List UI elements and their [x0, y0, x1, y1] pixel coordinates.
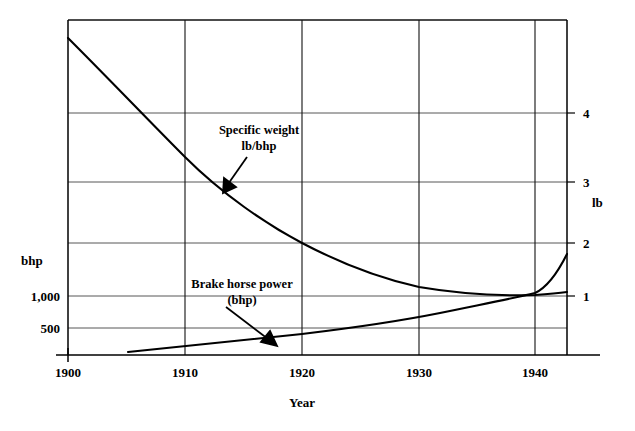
x-tick-label-1920: 1920 — [289, 366, 315, 379]
y-left-tick-label-500: 500 — [8, 322, 60, 335]
axis-lines — [56, 20, 600, 355]
series-specific-weight-curve — [68, 38, 567, 295]
chart-figure: 1900 1910 1920 1930 1940 Year bhp 1,000 … — [0, 0, 635, 431]
annotation-specific-weight: Specific weight lb/bhp — [219, 123, 299, 154]
horizontal-gridlines — [68, 20, 567, 328]
x-axis-title: Year — [289, 396, 315, 409]
x-tick-label-1900: 1900 — [55, 366, 81, 379]
x-tick-label-1910: 1910 — [172, 366, 198, 379]
annotation-arrows — [223, 157, 277, 346]
y-axis-right-title: lb — [592, 196, 603, 209]
x-tick-label-1930: 1930 — [406, 366, 432, 379]
y-right-tick-label-4: 4 — [583, 107, 590, 120]
annotation-bhp-line1: Brake horse power — [191, 277, 292, 291]
bhp-arrow-head — [261, 331, 277, 346]
right-axis-ticks — [567, 113, 575, 296]
annotation-bhp-line2: (bhp) — [227, 293, 256, 307]
y-left-tick-label-1000: 1,000 — [8, 290, 60, 303]
y-right-tick-label-2: 2 — [583, 237, 590, 250]
specific-weight-arrow-head — [223, 178, 236, 193]
y-right-tick-label-3: 3 — [583, 176, 590, 189]
annotation-brake-horse-power: Brake horse power (bhp) — [191, 277, 292, 308]
y-axis-left-title: bhp — [21, 254, 43, 267]
annotation-specific-weight-line1: Specific weight — [219, 123, 299, 137]
annotation-specific-weight-line2: lb/bhp — [242, 139, 277, 153]
y-right-tick-label-1: 1 — [583, 290, 590, 303]
x-tick-label-1940: 1940 — [522, 366, 548, 379]
